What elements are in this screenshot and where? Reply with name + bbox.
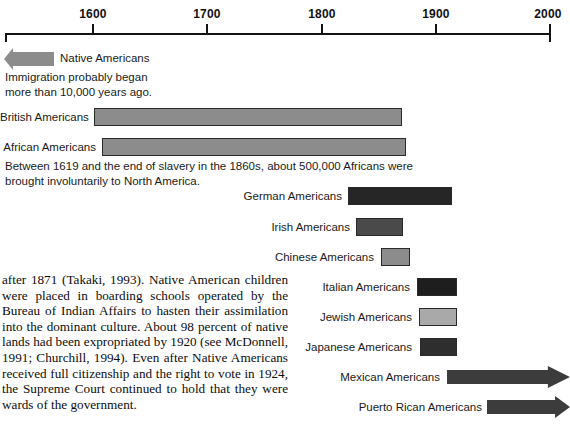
axis-tick-1900 <box>435 24 437 34</box>
timeline-row-native-americans: Native Americans <box>0 48 570 67</box>
bar-german-americans <box>348 187 452 205</box>
note-native-americans-line1: Immigration probably began <box>5 70 305 85</box>
bar-label-native-americans: Native Americans <box>60 49 149 68</box>
bar-british-americans <box>94 108 402 126</box>
timeline-row-british-americans: British Americans <box>0 108 570 127</box>
note-african-americans: Between 1619 and the end of slavery in t… <box>5 159 475 188</box>
axis-label-1700: 1700 <box>193 7 221 21</box>
bar-label-african-americans: African Americans <box>0 138 96 157</box>
timeline-row-irish-americans: Irish Americans <box>0 218 570 237</box>
axis-tick-1800 <box>321 24 323 34</box>
bar-label-japanese-americans: Japanese Americans <box>290 338 412 357</box>
axis-tick-1600 <box>92 24 94 34</box>
bar-label-british-americans: British Americans <box>0 108 88 127</box>
bar-label-german-americans: German Americans <box>230 187 342 206</box>
note-african-americans-line1: Between 1619 and the end of slavery in t… <box>5 159 475 174</box>
bar-label-jewish-americans: Jewish Americans <box>300 308 412 327</box>
bar-label-chinese-americans: Chinese Americans <box>258 248 374 267</box>
bar-japanese-americans <box>420 338 457 356</box>
bar-african-americans <box>102 138 406 156</box>
note-african-americans-line2: brought involuntarily to North America. <box>5 174 475 189</box>
axis-label-1900: 1900 <box>422 7 450 21</box>
axis-endcap-left <box>5 33 7 42</box>
bar-jewish-americans <box>419 308 457 326</box>
axis-label-1800: 1800 <box>308 7 336 21</box>
bar-native-americans <box>4 48 54 70</box>
bar-puerto-rican-americans <box>487 396 570 418</box>
bar-label-mexican-americans: Mexican Americans <box>318 368 440 387</box>
timeline-row-chinese-americans: Chinese Americans <box>0 248 570 267</box>
timeline-row-german-americans: German Americans <box>0 187 570 206</box>
bar-label-italian-americans: Italian Americans <box>300 278 410 297</box>
bar-mexican-americans <box>447 366 570 388</box>
note-native-americans: Immigration probably began more than 10,… <box>5 70 305 99</box>
body-text-paragraph: after 1871 (Takaki, 1993). Native Americ… <box>2 272 288 412</box>
bar-italian-americans <box>417 278 457 296</box>
axis-endcap-right <box>549 33 551 42</box>
bar-label-puerto-rican-americans: Puerto Rican Americans <box>330 398 482 417</box>
axis-line <box>5 33 551 35</box>
bar-chinese-americans <box>381 248 410 266</box>
timeline-row-african-americans: African Americans <box>0 138 570 157</box>
axis-label-1600: 1600 <box>79 7 107 21</box>
immigration-timeline-figure: 1600 1700 1800 1900 2000 Native American… <box>0 0 570 428</box>
bar-irish-americans <box>356 218 403 236</box>
axis-tick-2000 <box>549 24 551 34</box>
bar-label-irish-americans: Irish Americans <box>250 218 350 237</box>
axis-tick-1700 <box>206 24 208 34</box>
note-native-americans-line2: more than 10,000 years ago. <box>5 85 305 100</box>
axis-label-2000: 2000 <box>534 7 562 21</box>
